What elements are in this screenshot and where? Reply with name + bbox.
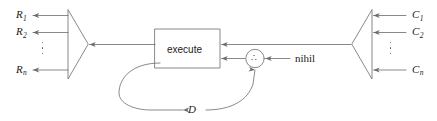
diagram-canvas: R1 R2 Rn execute ∴ nihil D C1 C2 Cn: [0, 0, 437, 121]
output-demux-shape: [68, 10, 88, 79]
feedback-loop-right-segment: [206, 70, 255, 110]
input-label-cn: Cn: [412, 64, 423, 75]
input-mux-shape: [352, 10, 372, 79]
diagram-vector-layer: [0, 0, 437, 121]
output-vertical-ellipsis-icon: [42, 42, 43, 54]
nihil-signal-label: nihil: [295, 53, 315, 64]
feedback-signal-label: D: [188, 104, 196, 115]
output-label-r1: R1: [16, 9, 26, 20]
output-label-r2: R2: [16, 26, 26, 37]
output-label-rn: Rn: [16, 64, 26, 75]
input-label-c2: C2: [412, 26, 423, 37]
feedback-loop-left-segment: [119, 63, 183, 110]
execute-block-label: execute: [167, 44, 202, 55]
combine-node-dots-icon: ∴: [251, 53, 257, 63]
input-label-c1: C1: [412, 9, 423, 20]
input-vertical-ellipsis-icon: [390, 42, 391, 54]
